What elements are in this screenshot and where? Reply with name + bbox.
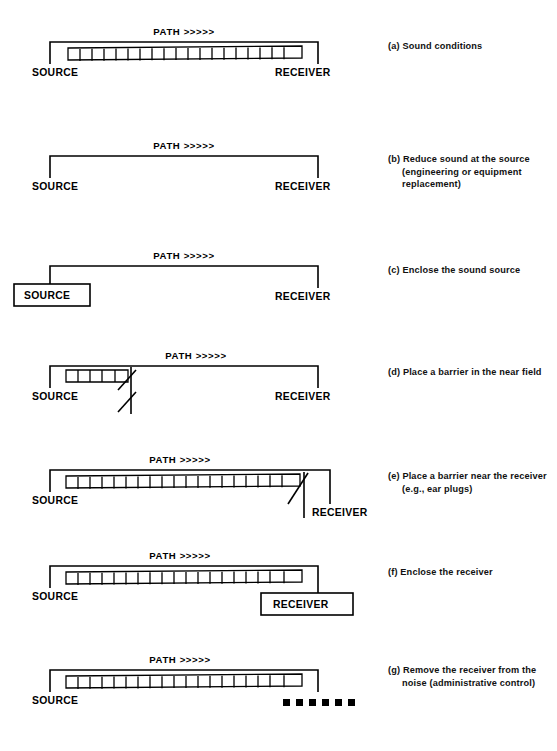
panel-g-marker: (g) xyxy=(388,665,400,675)
panel-c-caption-text: Enclose the sound source xyxy=(402,265,520,275)
receiver-label: RECEIVER xyxy=(275,391,331,402)
barrier-near-source xyxy=(118,367,136,414)
panel-d-diagram: PATH >>>>> SOURCE RECEIVER xyxy=(0,348,380,426)
receiver-label: RECEIVER xyxy=(275,291,331,302)
panel-a-marker: (a) xyxy=(388,41,400,51)
hatched-path-bar xyxy=(68,46,302,61)
panel-c-caption: (c) Enclose the sound source xyxy=(388,264,554,277)
panel-f-marker: (f) xyxy=(388,567,398,577)
panel-f-caption: (f) Enclose the receiver xyxy=(388,566,554,579)
panel-f-diagram: PATH >>>>> SOURCE RECEIVER xyxy=(0,548,380,626)
panel-d-caption: (d) Place a barrier in the near field xyxy=(388,366,554,379)
panel-e-diagram: PATH >>>>> SOURCE RECEIVER xyxy=(0,452,380,530)
panel-d-caption-text: Place a barrier in the near field xyxy=(403,367,542,377)
panel-d-svg: PATH >>>>> SOURCE RECEIVER xyxy=(0,348,380,426)
bracket xyxy=(50,42,318,64)
panel-c-svg: PATH >>>>> SOURCE RECEIVER xyxy=(0,248,380,318)
panel-a-caption: (a) Sound conditions xyxy=(388,40,554,53)
panel-f-caption-text: Enclose the receiver xyxy=(400,567,492,577)
path-label: PATH >>>>> xyxy=(165,350,226,361)
path-label: PATH >>>>> xyxy=(153,140,214,151)
source-label: SOURCE xyxy=(24,290,70,301)
noise-control-figure: PATH >>>>> SOURCE RECEIVER (a) Sound con… xyxy=(0,0,557,751)
bracket xyxy=(50,156,318,178)
source-label: SOURCE xyxy=(32,695,78,706)
receiver-label: RECEIVER xyxy=(275,181,331,192)
receiver-label: RECEIVER xyxy=(312,507,368,518)
panel-g-diagram: PATH >>>>> SOURCE xyxy=(0,652,380,722)
panel-b-caption-text: Reduce sound at the source (engineering … xyxy=(402,154,530,189)
source-label: SOURCE xyxy=(32,67,78,78)
source-label: SOURCE xyxy=(32,591,78,602)
source-label: SOURCE xyxy=(32,181,78,192)
receiver-label: RECEIVER xyxy=(275,67,331,78)
panel-c-diagram: PATH >>>>> SOURCE RECEIVER xyxy=(0,248,380,318)
hatched-path-bar xyxy=(66,674,302,689)
panel-b-marker: (b) xyxy=(388,154,400,164)
panel-b-svg: PATH >>>>> SOURCE RECEIVER xyxy=(0,138,380,200)
path-label: PATH >>>>> xyxy=(153,26,214,37)
panel-g-caption-text: Remove the receiver from the noise (admi… xyxy=(402,665,536,688)
path-label: PATH >>>>> xyxy=(149,550,210,561)
panel-e-caption: (e) Place a barrier near the receiver (e… xyxy=(388,470,554,495)
panel-a-diagram: PATH >>>>> SOURCE RECEIVER xyxy=(0,24,380,86)
hatched-path-bar xyxy=(66,370,128,382)
panel-f-svg: PATH >>>>> SOURCE RECEIVER xyxy=(0,548,380,626)
panel-e-marker: (e) xyxy=(388,471,400,481)
panel-b-caption: (b) Reduce sound at the source (engineer… xyxy=(388,153,554,191)
panel-a-svg: PATH >>>>> SOURCE RECEIVER xyxy=(0,24,380,86)
receiver-label: RECEIVER xyxy=(273,599,329,610)
panel-g-caption: (g) Remove the receiver from the noise (… xyxy=(388,664,554,689)
panel-c-marker: (c) xyxy=(388,265,400,275)
path-label: PATH >>>>> xyxy=(149,654,210,665)
source-label: SOURCE xyxy=(32,495,78,506)
barrier-near-receiver xyxy=(288,472,308,518)
path-label: PATH >>>>> xyxy=(153,250,214,261)
removed-receiver-dashes xyxy=(283,699,355,706)
panel-a-caption-text: Sound conditions xyxy=(402,41,482,51)
path-label: PATH >>>>> xyxy=(149,454,210,465)
source-label: SOURCE xyxy=(32,391,78,402)
hatched-path-bar xyxy=(66,474,300,489)
panel-e-caption-text: Place a barrier near the receiver (e.g.,… xyxy=(402,471,547,494)
panel-g-svg: PATH >>>>> SOURCE xyxy=(0,652,380,722)
panel-b-diagram: PATH >>>>> SOURCE RECEIVER xyxy=(0,138,380,200)
panel-d-marker: (d) xyxy=(388,367,400,377)
hatched-path-bar xyxy=(66,570,302,585)
panel-e-svg: PATH >>>>> SOURCE RECEIVER xyxy=(0,452,380,530)
